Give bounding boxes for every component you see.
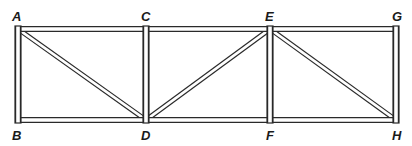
joint-label-g: G — [392, 10, 402, 23]
member-fill — [149, 31, 267, 117]
truss-diagram — [0, 0, 412, 146]
joint-label-f: F — [266, 129, 274, 142]
member-fill — [273, 31, 393, 117]
joint-label-e: E — [265, 10, 274, 23]
joint-label-h: H — [392, 129, 401, 142]
member-fill — [21, 31, 142, 117]
joint-label-d: D — [141, 129, 150, 142]
joint-label-c: C — [141, 10, 150, 23]
joint-label-b: B — [12, 129, 21, 142]
joint-label-a: A — [12, 10, 21, 23]
truss-members — [15, 26, 399, 123]
